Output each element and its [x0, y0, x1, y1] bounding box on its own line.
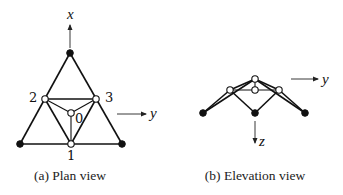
- free-node-3: [93, 96, 99, 102]
- y-axis-label-elevation: y: [320, 71, 329, 87]
- free-node-left-elevation: [227, 87, 233, 93]
- figure-canvas: x y 2 3 0 1: [0, 0, 343, 195]
- caption-plan-view: (a) Plan view: [34, 168, 106, 183]
- support-node-bottom-left: [17, 141, 24, 148]
- free-node-top-elevation: [252, 76, 258, 82]
- x-axis-label: x: [66, 6, 74, 22]
- inner-members: [45, 99, 96, 144]
- support-node-center-elevation: [252, 110, 259, 117]
- y-axis-label: y: [148, 105, 157, 121]
- node-label-2: 2: [29, 90, 37, 105]
- free-node-center-elevation: [252, 87, 258, 93]
- node-label-1: 1: [67, 148, 75, 163]
- free-node-1: [68, 141, 74, 147]
- plan-view-panel: x y 2 3 0 1: [17, 6, 157, 183]
- caption-elevation-view: (b) Elevation view: [205, 168, 306, 183]
- free-node-right-elevation: [276, 87, 282, 93]
- elevation-members: [203, 79, 305, 113]
- z-axis-label: z: [258, 133, 265, 149]
- free-node-2: [42, 96, 48, 102]
- free-node-0: [68, 110, 74, 116]
- support-node-top: [67, 50, 74, 57]
- support-node-left-elevation: [200, 110, 207, 117]
- support-node-bottom-right: [119, 141, 126, 148]
- elevation-view-panel: y z (b) Elevation vie: [200, 71, 329, 183]
- support-node-right-elevation: [302, 110, 309, 117]
- node-label-3: 3: [105, 90, 113, 105]
- node-label-0: 0: [75, 111, 83, 126]
